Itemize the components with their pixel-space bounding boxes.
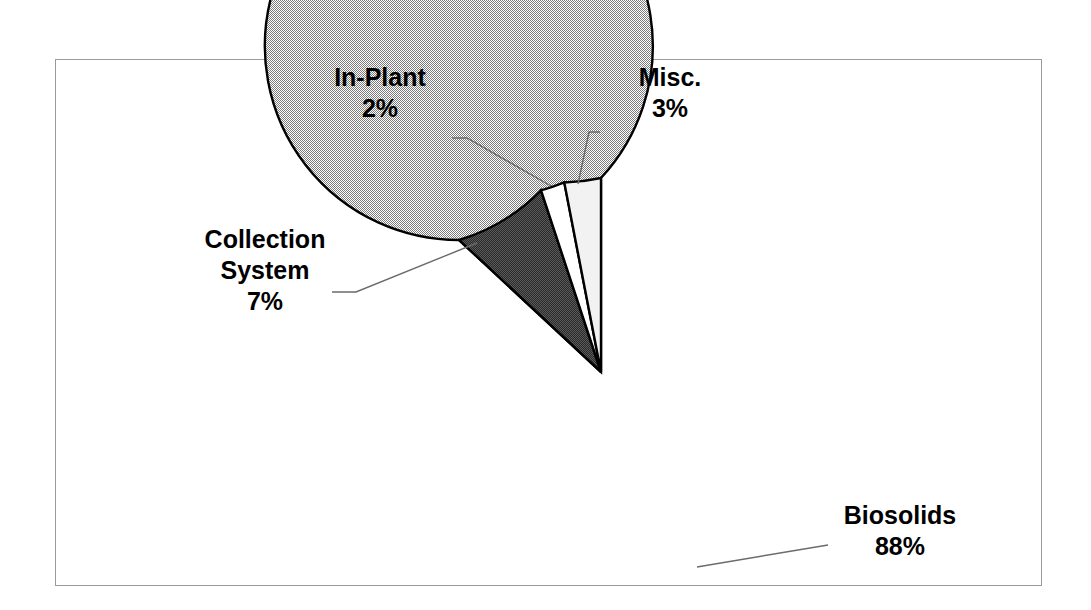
pie-label-biosolids-name: Biosolids bbox=[844, 501, 957, 529]
pie-label-in-plant-percent: 2% bbox=[305, 93, 455, 124]
pie-label-misc-name: Misc. bbox=[639, 63, 702, 91]
pie-label-misc-percent: 3% bbox=[605, 93, 735, 124]
pie-label-collection-system-name-line1: Collection bbox=[205, 225, 326, 253]
pie-label-biosolids: Biosolids 88% bbox=[800, 500, 1000, 562]
pie-label-collection-system: Collection System 7% bbox=[160, 224, 370, 317]
pie-label-in-plant-name: In-Plant bbox=[334, 63, 426, 91]
pie-label-in-plant: In-Plant 2% bbox=[305, 62, 455, 124]
pie-label-biosolids-percent: 88% bbox=[800, 531, 1000, 562]
pie-label-collection-system-percent: 7% bbox=[160, 286, 370, 317]
pie-label-collection-system-name-line2: System bbox=[160, 255, 370, 286]
pie-label-misc: Misc. 3% bbox=[605, 62, 735, 124]
